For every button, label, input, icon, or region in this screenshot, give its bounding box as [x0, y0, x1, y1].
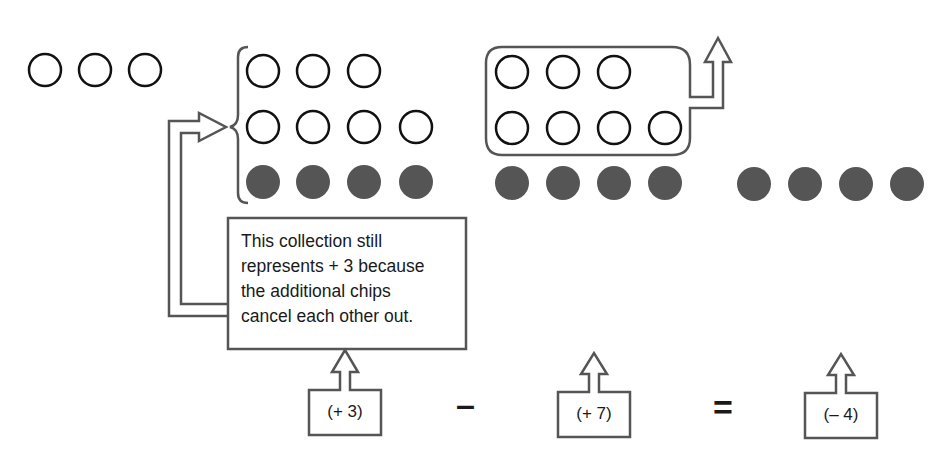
positive-chip	[79, 54, 111, 86]
removed-positive-chips	[496, 56, 681, 144]
positive-chip	[297, 111, 329, 143]
negative-chip	[399, 165, 433, 199]
positive-chip	[496, 56, 528, 88]
term1-label: (+ 3)	[309, 402, 381, 422]
left-positive-chips	[29, 54, 161, 86]
positive-chip	[247, 55, 279, 87]
result-negative-chips	[737, 167, 924, 201]
negative-chip	[546, 166, 580, 200]
term2-box	[558, 353, 630, 437]
positive-chip	[496, 112, 528, 144]
equals-operator: =	[713, 388, 733, 427]
positive-chip	[29, 54, 61, 86]
negative-chip	[737, 167, 771, 201]
negative-chip	[597, 166, 631, 200]
negative-chip	[495, 166, 529, 200]
term2-label: (+ 7)	[558, 404, 630, 424]
result-box	[805, 354, 877, 438]
term1-box	[309, 350, 381, 435]
result-label: (– 4)	[805, 405, 877, 425]
chip-model-diagram	[0, 0, 950, 459]
minus-operator: –	[456, 385, 475, 424]
middle-positive-chips	[247, 55, 432, 143]
positive-chip	[598, 56, 630, 88]
note-line: the additional chips	[241, 279, 465, 304]
negative-chip	[347, 165, 381, 199]
note-line: This collection still	[241, 229, 465, 254]
curly-brace	[230, 47, 248, 203]
explanation-note: This collection still represents + 3 bec…	[229, 219, 465, 348]
negative-chip	[839, 167, 873, 201]
positive-chip	[547, 56, 579, 88]
note-line: represents + 3 because	[241, 254, 465, 279]
negative-chip	[890, 167, 924, 201]
positive-chip	[129, 54, 161, 86]
negative-chip	[648, 166, 682, 200]
negative-chip	[788, 167, 822, 201]
pointer-arrow-to-brace	[169, 113, 229, 316]
positive-chip	[400, 111, 432, 143]
positive-chip	[598, 112, 630, 144]
negative-chip	[296, 165, 330, 199]
middle-negative-chips	[246, 165, 433, 199]
positive-chip	[547, 112, 579, 144]
positive-chip	[649, 112, 681, 144]
positive-chip	[348, 111, 380, 143]
note-line: cancel each other out.	[241, 304, 465, 329]
positive-chip	[348, 55, 380, 87]
positive-chip	[247, 111, 279, 143]
negative-chip	[246, 165, 280, 199]
remaining-negative-chips	[495, 166, 682, 200]
positive-chip	[297, 55, 329, 87]
